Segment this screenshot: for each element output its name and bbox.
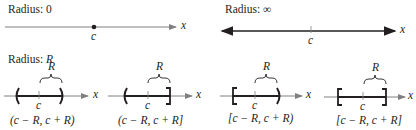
brace-label: R <box>156 60 163 72</box>
axis-label: x <box>306 88 311 100</box>
brace-label: R <box>372 61 379 73</box>
interval-notation: (c − R, c + R) <box>10 114 75 126</box>
center-label: c <box>360 100 365 112</box>
center-label: c <box>252 99 257 111</box>
center-label: c <box>145 99 150 111</box>
brace-label: R <box>48 60 55 72</box>
number-line-diagrams <box>0 0 416 130</box>
center-point <box>92 25 97 30</box>
center-label: c <box>36 99 41 111</box>
axis-label: x <box>400 23 405 35</box>
center-label: c <box>308 34 313 46</box>
axis-label: x <box>196 88 201 100</box>
interval-open-open <box>4 74 88 104</box>
brace-label: R <box>263 60 270 72</box>
interval-notation: [c − R, c + R) <box>228 112 293 124</box>
interval-notation: (c − R, c + R] <box>118 114 183 126</box>
radius-zero-line <box>5 25 176 30</box>
interval-notation: [c − R, c + R] <box>336 114 402 126</box>
radius-infinity-line <box>222 26 395 33</box>
interval-closed-open <box>220 74 302 104</box>
axis-label: x <box>181 19 186 31</box>
axis-label: x <box>93 88 98 100</box>
axis-label: x <box>408 89 413 101</box>
center-label: c <box>91 30 96 42</box>
